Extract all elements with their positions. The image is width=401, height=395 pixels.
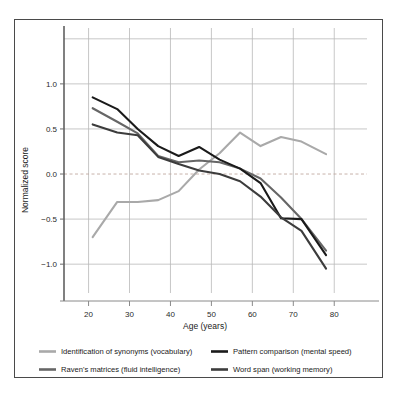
x-tick-label: 40 bbox=[166, 310, 175, 319]
y-tick-label: 1.0 bbox=[46, 80, 58, 89]
x-tick-label: 50 bbox=[207, 310, 216, 319]
series-line-1 bbox=[93, 108, 326, 250]
legend-item[interactable]: Identification of synonyms (vocabulary) bbox=[39, 347, 193, 356]
y-axis-title: Normalized score bbox=[20, 147, 30, 213]
x-tick-label: 80 bbox=[330, 310, 339, 319]
series-line-2 bbox=[93, 97, 326, 255]
y-tick-label: 0.5 bbox=[46, 125, 58, 134]
y-tick-label: −0.5 bbox=[41, 215, 57, 224]
series-layer bbox=[93, 97, 326, 268]
legend-item[interactable]: Pattern comparison (mental speed) bbox=[211, 347, 352, 356]
legend-item-label: Raven's matrices (fluid intelligence) bbox=[61, 365, 181, 374]
x-axis-title: Age (years) bbox=[183, 321, 227, 331]
x-tick-label: 60 bbox=[248, 310, 257, 319]
grid-layer bbox=[64, 28, 367, 293]
series-line-0 bbox=[93, 133, 326, 238]
legend-item[interactable]: Word span (working memory) bbox=[211, 365, 333, 374]
axes-layer bbox=[60, 26, 379, 301]
legend-item-label: Identification of synonyms (vocabulary) bbox=[61, 347, 193, 356]
x-tick-label: 70 bbox=[289, 310, 298, 319]
series-line-3 bbox=[93, 124, 326, 268]
chart-legend: Identification of synonyms (vocabulary)P… bbox=[39, 347, 352, 374]
ticks-layer: −1.0−0.50.00.51.020304050607080 bbox=[41, 80, 339, 319]
chart-canvas: −1.0−0.50.00.51.020304050607080 Normaliz… bbox=[15, 20, 382, 377]
legend-item-label: Word span (working memory) bbox=[233, 365, 333, 374]
figure-panel: −1.0−0.50.00.51.020304050607080 Normaliz… bbox=[14, 19, 383, 378]
x-tick-label: 20 bbox=[84, 310, 93, 319]
x-tick-label: 30 bbox=[125, 310, 134, 319]
y-tick-label: −1.0 bbox=[41, 260, 57, 269]
y-tick-label: 0.0 bbox=[46, 170, 58, 179]
legend-item[interactable]: Raven's matrices (fluid intelligence) bbox=[39, 365, 181, 374]
legend-item-label: Pattern comparison (mental speed) bbox=[233, 347, 352, 356]
